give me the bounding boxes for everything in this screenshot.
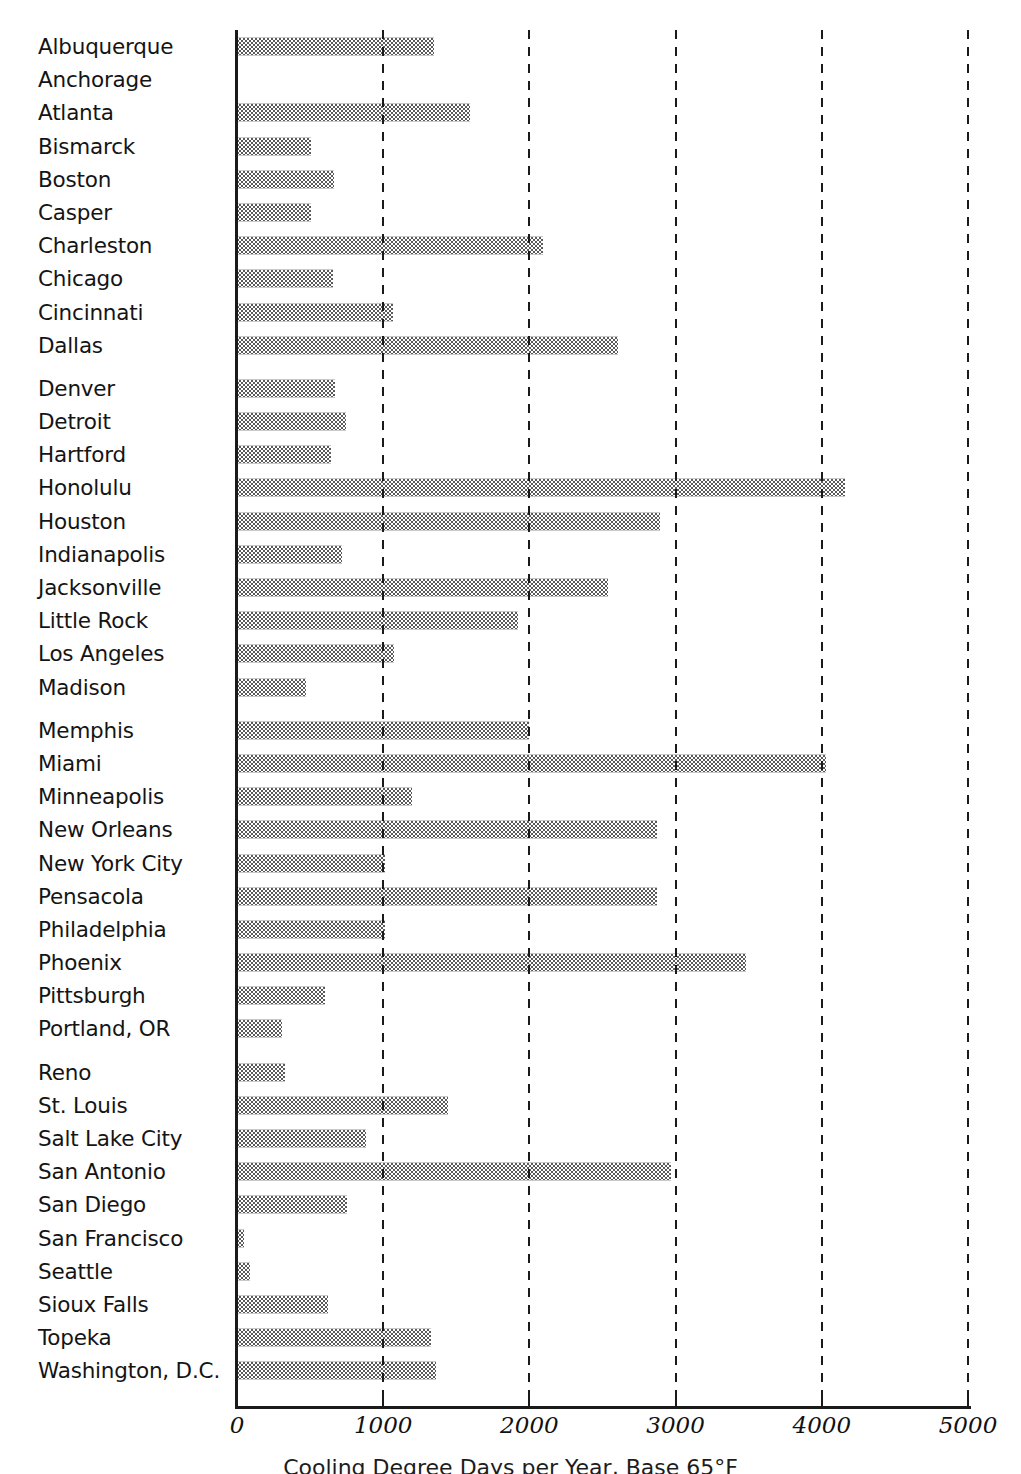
bar-track <box>237 1056 1021 1089</box>
x-tick <box>528 1398 530 1408</box>
bar <box>237 1229 244 1248</box>
gridline <box>967 30 969 1408</box>
x-tick-label: 1000 <box>354 1412 413 1438</box>
bar <box>237 1328 431 1347</box>
category-label: Atlanta <box>0 96 225 129</box>
bar-row: Chicago <box>0 262 1021 295</box>
category-label: Dallas <box>0 329 225 362</box>
bar <box>237 1096 448 1115</box>
category-label: Jacksonville <box>0 571 225 604</box>
bar-track <box>237 1222 1021 1255</box>
bar-row: Hartford <box>0 438 1021 471</box>
bar <box>237 1162 671 1181</box>
bar-track <box>237 63 1021 96</box>
category-label: Seattle <box>0 1255 225 1288</box>
bar-track <box>237 405 1021 438</box>
bar-track <box>237 538 1021 571</box>
x-tick-label: 4000 <box>793 1412 852 1438</box>
category-label: Phoenix <box>0 946 225 979</box>
bar-row: Denver <box>0 372 1021 405</box>
bar-row: St. Louis <box>0 1089 1021 1122</box>
category-label: Sioux Falls <box>0 1288 225 1321</box>
bar <box>237 1195 347 1214</box>
category-label: Philadelphia <box>0 913 225 946</box>
category-label: Memphis <box>0 714 225 747</box>
category-label: Portland, OR <box>0 1012 225 1045</box>
category-label: Boston <box>0 163 225 196</box>
bar <box>237 820 657 839</box>
bar-row: Pensacola <box>0 880 1021 913</box>
category-label: Minneapolis <box>0 780 225 813</box>
bar-track <box>237 880 1021 913</box>
bar-row: Phoenix <box>0 946 1021 979</box>
bar <box>237 545 342 564</box>
bar-row: Seattle <box>0 1255 1021 1288</box>
bar-row: San Diego <box>0 1188 1021 1221</box>
bar-track <box>237 946 1021 979</box>
bar-row: San Francisco <box>0 1222 1021 1255</box>
bar <box>237 953 746 972</box>
bar-row: San Antonio <box>0 1155 1021 1188</box>
category-label: Topeka <box>0 1321 225 1354</box>
gridline <box>675 30 677 1408</box>
bar-track <box>237 1089 1021 1122</box>
x-tick <box>967 1398 969 1408</box>
bar-row: Minneapolis <box>0 780 1021 813</box>
bar <box>237 412 346 431</box>
category-label: Honolulu <box>0 471 225 504</box>
bar-row: Houston <box>0 505 1021 538</box>
category-label: Miami <box>0 747 225 780</box>
bar-track <box>237 1122 1021 1155</box>
bar-row: Los Angeles <box>0 637 1021 670</box>
bar-row: Casper <box>0 196 1021 229</box>
bar-track <box>237 163 1021 196</box>
bar-row: Madison <box>0 671 1021 704</box>
bar-track <box>237 1155 1021 1188</box>
category-label: Chicago <box>0 262 225 295</box>
category-label: New York City <box>0 847 225 880</box>
bar-row: Albuquerque <box>0 30 1021 63</box>
bar-track <box>237 30 1021 63</box>
bar-row: Charleston <box>0 229 1021 262</box>
bar-row: Jacksonville <box>0 571 1021 604</box>
bar-row: New Orleans <box>0 813 1021 846</box>
bar-row: Portland, OR <box>0 1012 1021 1045</box>
bar-row: Topeka <box>0 1321 1021 1354</box>
bar-track <box>237 747 1021 780</box>
bar-row: Miami <box>0 747 1021 780</box>
category-label: Pensacola <box>0 880 225 913</box>
bar-track <box>237 1255 1021 1288</box>
bar <box>237 854 385 873</box>
category-label: Albuquerque <box>0 30 225 63</box>
bar-row: Little Rock <box>0 604 1021 637</box>
bar <box>237 920 385 939</box>
bar-track <box>237 979 1021 1012</box>
bar <box>237 445 331 464</box>
category-label: St. Louis <box>0 1089 225 1122</box>
category-label: Denver <box>0 372 225 405</box>
bar <box>237 1063 285 1082</box>
bar <box>237 1129 366 1148</box>
x-tick-label: 2000 <box>500 1412 559 1438</box>
bar <box>237 236 543 255</box>
x-axis-title: Cooling Degree Days per Year, Base 65°F <box>0 1455 1021 1474</box>
bar <box>237 986 325 1005</box>
bar <box>237 203 311 222</box>
bar <box>237 578 608 597</box>
bar-row: Sioux Falls <box>0 1288 1021 1321</box>
category-label: Casper <box>0 196 225 229</box>
category-label: Salt Lake City <box>0 1122 225 1155</box>
bar-track <box>237 96 1021 129</box>
bar <box>237 478 845 497</box>
category-label: Los Angeles <box>0 637 225 670</box>
category-label: Houston <box>0 505 225 538</box>
bar-row: New York City <box>0 847 1021 880</box>
bar <box>237 1262 250 1281</box>
bar-row: Bismarck <box>0 130 1021 163</box>
bar-track <box>237 438 1021 471</box>
horizontal-bar-chart: AlbuquerqueAnchorageAtlantaBismarckBosto… <box>0 0 1021 1474</box>
category-label: Madison <box>0 671 225 704</box>
bar <box>237 512 660 531</box>
bar-row: Honolulu <box>0 471 1021 504</box>
category-label: Charleston <box>0 229 225 262</box>
